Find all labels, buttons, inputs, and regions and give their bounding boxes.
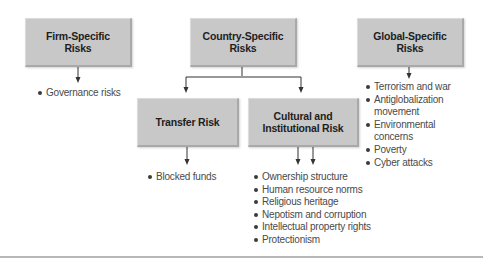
arrowhead-firm bbox=[76, 77, 81, 83]
node-firm-line1: Firm-Specific bbox=[46, 30, 110, 43]
global-risk-list: Terrorism and war Antiglobalization move… bbox=[365, 81, 475, 169]
list-item: Blocked funds bbox=[147, 171, 216, 184]
node-country-line1: Country-Specific bbox=[203, 30, 284, 43]
arrowhead-transfer-list bbox=[185, 159, 190, 165]
node-cultural-institutional-risk: Cultural and Institutional Risk bbox=[248, 98, 359, 147]
list-item: Intellectual property rights bbox=[253, 221, 371, 234]
arrowhead-transfer bbox=[184, 87, 189, 93]
node-cultural-line1: Cultural and bbox=[263, 110, 344, 123]
list-item: Protectionism bbox=[253, 234, 371, 247]
node-firm-specific-risks: Firm-Specific Risks bbox=[25, 18, 132, 67]
node-country-line2: Risks bbox=[203, 42, 284, 55]
node-global-specific-risks: Global-Specific Risks bbox=[357, 18, 464, 67]
node-firm-line2: Risks bbox=[46, 42, 110, 55]
list-item: Nepotism and corruption bbox=[253, 209, 371, 222]
arrowhead-cultural-list-b bbox=[311, 159, 316, 165]
node-cultural-line2: Institutional Risk bbox=[263, 122, 344, 135]
arrowhead-global bbox=[407, 73, 412, 79]
list-item: Environmental concerns bbox=[365, 119, 475, 144]
list-item: Ownership structure bbox=[253, 171, 371, 184]
bottom-divider bbox=[0, 256, 483, 258]
list-item: Terrorism and war bbox=[365, 81, 475, 94]
list-item: Religious heritage bbox=[253, 196, 371, 209]
firm-risk-list: Governance risks bbox=[37, 87, 121, 100]
cultural-risk-list: Ownership structure Human resource norms… bbox=[253, 171, 371, 247]
edge-country-branch bbox=[186, 66, 301, 89]
node-transfer-risk: Transfer Risk bbox=[137, 98, 239, 147]
node-global-line1: Global-Specific bbox=[373, 30, 446, 43]
transfer-risk-list: Blocked funds bbox=[147, 171, 216, 184]
arrowhead-cultural bbox=[299, 87, 304, 93]
list-item: Poverty bbox=[365, 144, 475, 157]
node-global-line2: Risks bbox=[373, 42, 446, 55]
list-item: Cyber attacks bbox=[365, 157, 475, 170]
list-item: Antiglobalization movement bbox=[365, 94, 475, 119]
list-item: Governance risks bbox=[37, 87, 121, 100]
list-item: Human resource norms bbox=[253, 184, 371, 197]
node-transfer-line1: Transfer Risk bbox=[156, 116, 220, 129]
node-country-specific-risks: Country-Specific Risks bbox=[190, 18, 297, 67]
arrowhead-cultural-list-a bbox=[296, 159, 301, 165]
